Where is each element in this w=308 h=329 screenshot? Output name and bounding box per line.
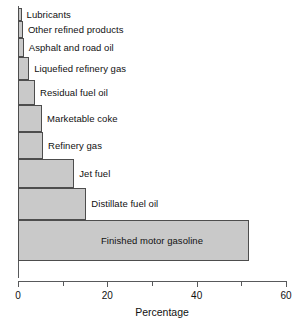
bar-row: Residual fuel oil <box>18 80 286 105</box>
bar-category-label: Refinery gas <box>43 141 102 151</box>
bar <box>18 105 42 132</box>
bar-category-label: Lubricants <box>22 10 71 20</box>
x-axis-line: 0204060 <box>18 281 286 282</box>
bar-category-label: Asphalt and road oil <box>24 43 114 53</box>
bar-row: Finished motor gasoline <box>18 220 286 261</box>
x-axis-tick-label: 20 <box>102 290 113 301</box>
bar-row: Marketable coke <box>18 105 286 132</box>
bar-category-label: Marketable coke <box>42 114 117 124</box>
bar-row: Liquefied refinery gas <box>18 57 286 80</box>
bar-row: Jet fuel <box>18 159 286 188</box>
bar-row: Lubricants <box>18 8 286 21</box>
bar-category-label: Distillate fuel oil <box>86 199 158 209</box>
x-axis-tick-label: 0 <box>15 290 21 301</box>
x-axis-tick <box>107 281 108 287</box>
x-axis-minor-tick <box>63 281 64 286</box>
horizontal-bar-chart: LubricantsOther refined productsAsphalt … <box>0 0 308 329</box>
bar <box>18 80 35 105</box>
x-axis-tick-label: 40 <box>191 290 202 301</box>
bar-row: Other refined products <box>18 21 286 38</box>
bar <box>18 159 74 188</box>
bar-category-label: Residual fuel oil <box>35 88 108 98</box>
x-axis-minor-tick <box>152 281 153 286</box>
x-axis-title: Percentage <box>0 306 308 318</box>
bar-row: Distillate fuel oil <box>18 188 286 220</box>
plot-area: LubricantsOther refined productsAsphalt … <box>18 8 286 276</box>
bar <box>18 132 43 159</box>
x-axis-tick-label: 60 <box>280 290 291 301</box>
x-axis-minor-tick <box>241 281 242 286</box>
x-axis-tick <box>197 281 198 287</box>
x-axis-tick <box>18 281 19 287</box>
bar <box>18 188 86 220</box>
bar-series: LubricantsOther refined productsAsphalt … <box>18 8 286 276</box>
bar <box>18 220 249 261</box>
bar-category-label: Other refined products <box>23 25 124 35</box>
x-axis-tick <box>286 281 287 287</box>
bar-row: Refinery gas <box>18 132 286 159</box>
bar-category-label: Jet fuel <box>74 169 110 179</box>
bar-category-label: Liquefied refinery gas <box>29 64 126 74</box>
bar-row: Asphalt and road oil <box>18 38 286 57</box>
bar <box>18 57 29 80</box>
